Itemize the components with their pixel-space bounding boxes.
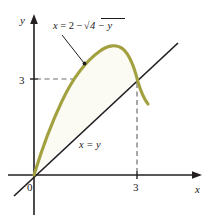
curve-label-leader-line [62, 35, 84, 63]
curve-eq-operator: = 2 [58, 20, 77, 31]
y-axis-arrow-icon [30, 14, 38, 24]
x-axis-arrow-icon [192, 171, 202, 179]
curve-eq-radical-icon: √ [84, 20, 90, 31]
y-axis-label: y [19, 14, 25, 26]
y-tick-label-3: 3 [19, 74, 25, 86]
origin-label: 0 [27, 181, 33, 193]
graph-figure: y x 0 3 3 x = 2 −√4 − y x = y [0, 0, 216, 220]
curve-eq-minus-sign: − [77, 20, 83, 31]
svg-text:x = 2 −√4 − y: x = 2 −√4 − y [52, 20, 112, 31]
graph-canvas: y x 0 3 3 x = 2 −√4 − y x = y [0, 0, 216, 220]
line-equation-label: x = y [78, 139, 101, 150]
curve-label-leader-dot [83, 62, 87, 66]
curve-eq-radicand: 4 − y [90, 20, 113, 31]
x-tick-label-3: 3 [133, 181, 139, 193]
x-axis-label: x [194, 183, 200, 195]
curve-equation-label: x = 2 −√4 − y [52, 19, 125, 32]
